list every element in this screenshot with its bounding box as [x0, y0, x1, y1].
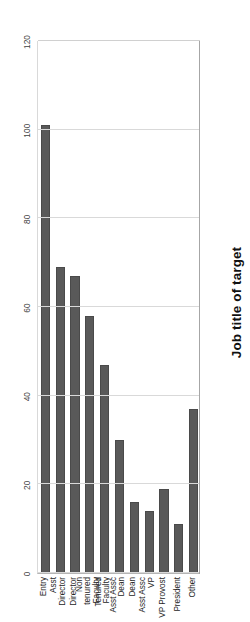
- bar[interactable]: [70, 276, 79, 573]
- gridline: [38, 129, 200, 130]
- axis-tick-label: 60: [22, 303, 32, 312]
- axis-baseline: [199, 41, 200, 574]
- bar-slot[interactable]: [100, 41, 109, 573]
- bar[interactable]: [130, 502, 139, 573]
- bar[interactable]: [115, 440, 124, 573]
- plot-wrapper: EntryAsstDirectorDirectorNontenuredFacul…: [37, 41, 200, 605]
- gridline: [38, 395, 200, 396]
- category-label: VP Provost: [159, 577, 168, 622]
- category-label: AsstDirector: [51, 577, 68, 622]
- category-label: President: [173, 577, 182, 622]
- bar-slot[interactable]: [159, 41, 168, 573]
- bar-slot[interactable]: [174, 41, 183, 573]
- category-label: Asst AsscDean: [110, 577, 127, 622]
- gridline: [38, 306, 200, 307]
- gridline: [38, 40, 200, 41]
- bar-slot[interactable]: [189, 41, 198, 573]
- bar[interactable]: [189, 409, 198, 573]
- bar[interactable]: [56, 267, 65, 573]
- axis-tick-label: 120: [22, 35, 32, 49]
- bar-slot[interactable]: [130, 41, 139, 573]
- bar[interactable]: [174, 524, 183, 573]
- bar-slot[interactable]: [145, 41, 154, 573]
- bar[interactable]: [85, 316, 94, 573]
- axis-tick-label: 100: [22, 124, 32, 138]
- plot-area: [37, 41, 200, 574]
- category-label: Asst AsscVP: [140, 577, 157, 622]
- bar-series: [38, 41, 200, 573]
- bar[interactable]: [41, 125, 50, 573]
- bar-slot[interactable]: [56, 41, 65, 573]
- axis-tick-label: 40: [22, 392, 32, 401]
- gridline: [38, 217, 200, 218]
- category-label: Entry: [40, 577, 49, 622]
- bar-slot[interactable]: [115, 41, 124, 573]
- chart-title: Job title of target: [229, 0, 244, 605]
- category-label: Dean: [129, 577, 138, 622]
- category-label: Other: [188, 577, 197, 622]
- bar-slot[interactable]: [70, 41, 79, 573]
- axis-tick-label: 80: [22, 215, 32, 224]
- axis-tick-label: 0: [22, 572, 32, 577]
- bar[interactable]: [145, 511, 154, 573]
- axis-tick-label: 20: [22, 481, 32, 490]
- gridline: [38, 483, 200, 484]
- value-axis: 020406080100120: [22, 0, 36, 574]
- bar-slot[interactable]: [85, 41, 94, 573]
- bar-slot[interactable]: [41, 41, 50, 573]
- category-axis: EntryAsstDirectorDirectorNontenuredFacul…: [37, 574, 200, 605]
- gridline: [38, 572, 200, 573]
- bar[interactable]: [159, 489, 168, 573]
- bar[interactable]: [100, 365, 109, 573]
